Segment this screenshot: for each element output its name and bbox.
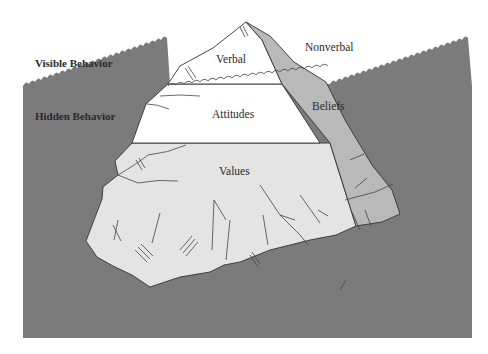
hidden-behavior-label: Hidden Behavior [35, 110, 115, 122]
visible-behavior-label: Visible Behavior [35, 57, 113, 69]
iceberg-diagram: Visible Behavior Hidden Behavior Verbal … [0, 0, 488, 354]
nonverbal-label: Nonverbal [305, 41, 354, 53]
verbal-label: Verbal [216, 53, 246, 65]
attitudes-label: Attitudes [212, 108, 254, 120]
beliefs-label: Beliefs [312, 100, 345, 112]
values-label: Values [219, 165, 250, 177]
